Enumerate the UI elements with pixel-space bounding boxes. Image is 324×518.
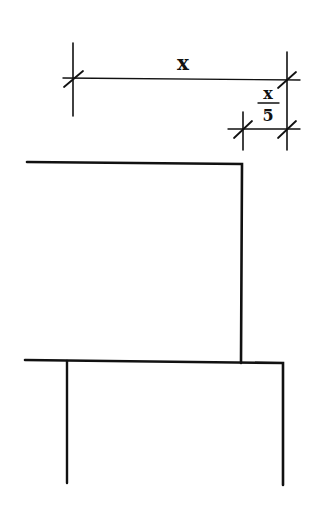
fraction-numerator: x — [263, 84, 273, 103]
dimension-label-x: x — [177, 51, 190, 75]
fraction-denominator: 5 — [262, 106, 273, 125]
lower-block-top — [25, 360, 283, 485]
upper-block-outline — [27, 162, 242, 363]
dimension-line-x — [63, 78, 300, 80]
diagram-canvas: x x 5 — [0, 0, 324, 518]
